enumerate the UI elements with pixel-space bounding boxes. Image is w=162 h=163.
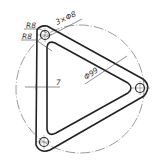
drawing-canvas: R8 R8 3×Φ8 Φ99 7 (0, 0, 162, 163)
triangle-plate-drawing: R8 R8 3×Φ8 Φ99 7 (0, 0, 162, 163)
hole-bottom-left (37, 135, 51, 149)
inner-contour (47, 42, 131, 134)
dim-fillet-inner: R8 (22, 32, 32, 41)
dim-wall-width: 7 (56, 78, 61, 87)
dim-pitch-circle: Φ99 (82, 65, 100, 81)
dim-holes: 3×Φ8 (54, 9, 78, 26)
dim-fillet-outer: R8 (26, 21, 36, 30)
